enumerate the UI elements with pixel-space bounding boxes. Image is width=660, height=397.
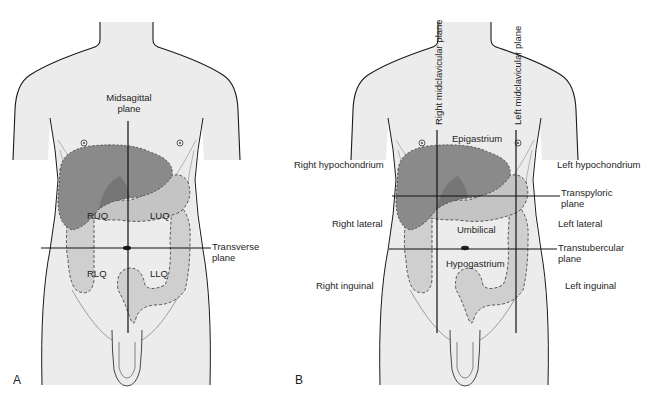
panel-a-letter: A — [13, 373, 21, 387]
luq-label: LUQ — [150, 210, 170, 221]
llq-label: LLQ — [150, 268, 168, 279]
ruq-label: RUQ — [87, 210, 108, 221]
umbilical-label: Umbilical — [457, 224, 496, 235]
left-inguinal-label: Left inguinal — [565, 280, 616, 291]
left-midclavicular-plane-label: Left midclavicular plane — [512, 26, 523, 125]
rlq-label: RLQ — [87, 268, 107, 279]
right-midclavicular-plane-label: Right midclavicular plane — [433, 19, 444, 125]
left-lateral-label: Left lateral — [558, 218, 602, 229]
right-hypochondrium-label: Right hypochondrium — [294, 159, 384, 170]
label-line: Transpyloric — [561, 187, 612, 198]
right-inguinal-label: Right inguinal — [316, 280, 374, 291]
label-line: plane — [558, 253, 624, 264]
right-lateral-label: Right lateral — [332, 218, 383, 229]
label-line: plane — [212, 252, 259, 263]
transpyloric-plane-label: Transpyloric plane — [561, 187, 612, 209]
transverse-plane-label: Transverse plane — [212, 241, 259, 263]
label-line: plane — [100, 103, 158, 114]
panel-b-letter: B — [295, 373, 303, 387]
label-line: plane — [561, 198, 612, 209]
hypogastrium-label: Hypogastrium — [446, 258, 505, 269]
midsagittal-plane-label: Midsagittal plane — [100, 92, 158, 114]
label-line: Midsagittal — [100, 92, 158, 103]
label-line: Transtubercular — [558, 242, 624, 253]
label-line: Transverse — [212, 241, 259, 252]
transtubercular-plane-label: Transtubercular plane — [558, 242, 624, 264]
epigastrium-label: Epigastrium — [452, 133, 502, 144]
left-hypochondrium-label: Left hypochondrium — [557, 159, 640, 170]
